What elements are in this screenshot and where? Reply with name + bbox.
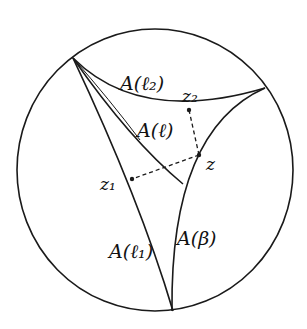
point-z2: [187, 108, 191, 112]
hyperbolic-disk-diagram: A(ℓ₂) z₂ A(ℓ) z z₁ A(β) A(ℓ₁): [0, 0, 307, 329]
label-a-beta: A(β): [175, 227, 217, 249]
geodesic-a-beta: [172, 88, 265, 311]
geodesic-a-l1: [73, 58, 173, 311]
geodesic-a-l1-edge: [73, 58, 140, 140]
point-z: [197, 153, 201, 157]
label-z2: z₂: [181, 86, 198, 106]
label-a-l2: A(ℓ₂): [118, 72, 164, 94]
geodesic-a-l2: [73, 58, 265, 101]
label-a-l: A(ℓ): [135, 119, 173, 141]
point-z1: [130, 177, 134, 181]
label-a-l1: A(ℓ₁): [107, 240, 153, 262]
dashed-z-z1: [132, 155, 199, 179]
dashed-z-z2: [189, 110, 199, 155]
label-z: z: [205, 154, 216, 174]
label-z1: z₁: [99, 174, 116, 194]
